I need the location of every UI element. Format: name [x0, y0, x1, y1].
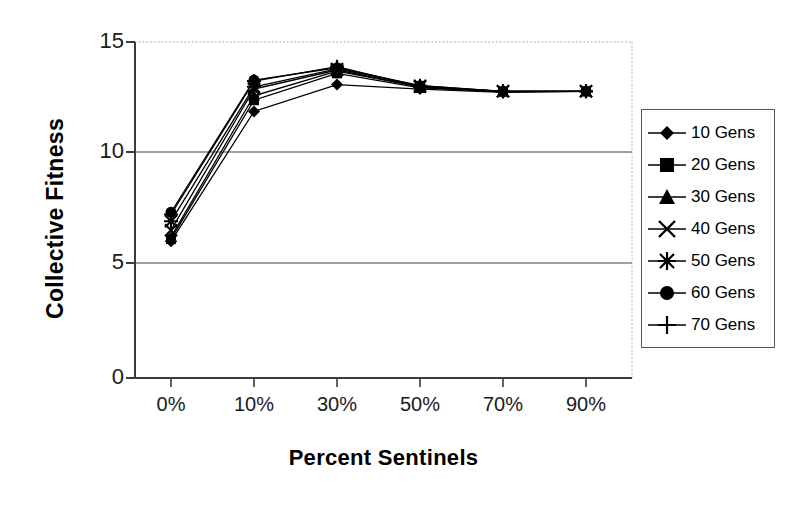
chart-legend: 10 Gens 20 Gens 30 Gens 40 Gens 50 Gens — [641, 109, 775, 348]
square-marker-icon — [646, 153, 688, 177]
legend-label-50-gens: 50 Gens — [688, 251, 755, 271]
legend-item-30-gens: 30 Gens — [642, 181, 774, 213]
plot-border — [135, 42, 632, 378]
legend-label-30-gens: 30 Gens — [688, 187, 755, 207]
series-10-gens — [165, 79, 592, 248]
gridlines — [135, 152, 632, 263]
star-marker-icon — [646, 249, 688, 273]
diamond-marker-icon — [646, 121, 688, 145]
legend-item-70-gens: 70 Gens — [642, 309, 774, 341]
legend-label-20-gens: 20 Gens — [688, 155, 755, 175]
legend-label-70-gens: 70 Gens — [688, 315, 755, 335]
legend-item-50-gens: 50 Gens — [642, 245, 774, 277]
data-point — [164, 207, 178, 221]
triangle-marker-icon — [646, 185, 688, 209]
legend-item-10-gens: 10 Gens — [642, 117, 774, 149]
chart-figure: Collective Fitness 15 10 5 0 0% 10% 30% … — [0, 0, 804, 513]
circle-marker-icon — [646, 281, 688, 305]
legend-label-60-gens: 60 Gens — [688, 283, 755, 303]
legend-item-40-gens: 40 Gens — [642, 213, 774, 245]
data-point — [331, 79, 343, 91]
series-20-gens — [166, 68, 591, 244]
data-series-layer — [164, 60, 593, 248]
series-60-gens — [166, 62, 592, 217]
plus-marker-icon — [646, 313, 688, 337]
axis-lines — [126, 42, 632, 387]
legend-label-40-gens: 40 Gens — [688, 219, 755, 239]
cross-marker-icon — [646, 217, 688, 241]
legend-label-10-gens: 10 Gens — [688, 123, 755, 143]
legend-item-60-gens: 60 Gens — [642, 277, 774, 309]
legend-item-20-gens: 20 Gens — [642, 149, 774, 181]
